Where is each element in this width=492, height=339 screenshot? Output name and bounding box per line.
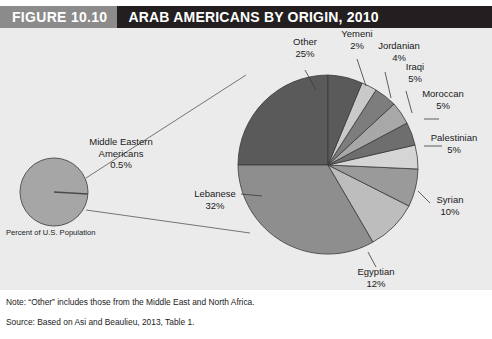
label-palestinian: Palestinian 5% xyxy=(420,132,488,155)
label-iraqi: Iraqi 5% xyxy=(392,61,438,84)
label-syrian: Syrian 10% xyxy=(424,194,476,217)
label-other-name: Other xyxy=(293,36,317,47)
label-egyptian: Egyptian 12% xyxy=(345,266,407,289)
slice-other xyxy=(238,75,328,165)
label-lebanese-pct: 32% xyxy=(184,200,246,212)
label-lebanese: Lebanese 32% xyxy=(184,188,246,211)
label-egyptian-name: Egyptian xyxy=(358,266,395,277)
footer-note: Note: “Other” includes those from the Mi… xyxy=(6,297,255,307)
label-syrian-pct: 10% xyxy=(424,206,476,218)
label-palestinian-pct: 5% xyxy=(420,144,488,156)
label-iraqi-name: Iraqi xyxy=(406,61,424,72)
label-syrian-name: Syrian xyxy=(437,194,464,205)
chart-area: Other 25% Yemeni 2% Jordanian 4% Iraqi 5… xyxy=(0,28,492,290)
percent-of-us-population-caption: Percent of U.S. Population xyxy=(6,228,96,237)
figure-number: FIGURE 10.10 xyxy=(0,6,117,28)
label-egyptian-pct: 12% xyxy=(345,278,407,290)
label-lebanese-name: Lebanese xyxy=(194,188,236,199)
callout-line-2: Americans xyxy=(76,148,166,160)
label-other: Other 25% xyxy=(276,36,334,59)
label-iraqi-pct: 5% xyxy=(392,73,438,85)
label-jordanian-name: Jordanian xyxy=(378,40,420,51)
callout-line-1: Middle Eastern xyxy=(89,136,152,147)
figure-title: ARAB AMERICANS BY ORIGIN, 2010 xyxy=(117,6,378,28)
label-moroccan-name: Moroccan xyxy=(422,88,464,99)
label-yemeni-name: Yemeni xyxy=(341,28,372,39)
figure-header: FIGURE 10.10 ARAB AMERICANS BY ORIGIN, 2… xyxy=(0,6,492,28)
label-jordanian: Jordanian 4% xyxy=(368,40,430,63)
callout-value: 0.5% xyxy=(76,159,166,171)
label-palestinian-name: Palestinian xyxy=(431,132,477,143)
label-other-pct: 25% xyxy=(276,48,334,60)
figure-footer: Note: “Other” includes those from the Mi… xyxy=(0,292,492,339)
label-middle-eastern-americans: Middle Eastern Americans 0.5% xyxy=(76,136,166,171)
figure-container: FIGURE 10.10 ARAB AMERICANS BY ORIGIN, 2… xyxy=(0,0,492,339)
label-moroccan: Moroccan 5% xyxy=(412,88,474,111)
chart-panel: Other 25% Yemeni 2% Jordanian 4% Iraqi 5… xyxy=(0,28,492,290)
pie-slices xyxy=(238,75,418,254)
label-moroccan-pct: 5% xyxy=(412,100,474,112)
footer-source: Source: Based on Asi and Beaulieu, 2013,… xyxy=(6,317,194,327)
